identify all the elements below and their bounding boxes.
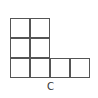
grid-cell xyxy=(50,58,70,78)
grid-cell xyxy=(10,58,30,78)
grid-cell xyxy=(10,18,30,38)
grid-cell xyxy=(30,38,50,58)
grid-diagram: C xyxy=(0,0,98,98)
grid-cell xyxy=(10,38,30,58)
grid-cell xyxy=(70,58,90,78)
grid-cell xyxy=(30,18,50,38)
point-label-c: C xyxy=(47,82,54,92)
grid-cell xyxy=(30,58,50,78)
